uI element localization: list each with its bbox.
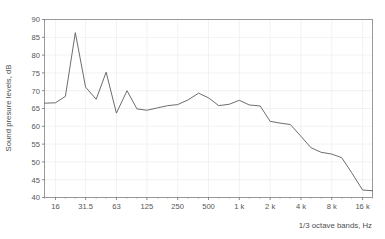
y-tick-label: 65 <box>32 104 40 113</box>
x-tick-label: 8 k <box>327 202 337 211</box>
y-tick-label: 85 <box>32 33 40 42</box>
y-tick-label: 90 <box>32 15 40 24</box>
y-tick-label: 70 <box>32 87 40 96</box>
y-axis-label: Sound presure levels, dB <box>4 64 13 151</box>
x-tick-label: 125 <box>141 202 154 211</box>
chart-container: 4045505560657075808590 1631.563125250500… <box>0 0 385 239</box>
y-tick-label: 80 <box>32 51 40 60</box>
x-axis-tick-labels: 1631.5631252505001 k2 k4 k8 k16 k <box>51 202 370 211</box>
x-tick-label: 1 k <box>234 202 244 211</box>
x-tick-label: 250 <box>171 202 184 211</box>
y-tick-label: 75 <box>32 69 40 78</box>
x-tick-label: 2 k <box>265 202 275 211</box>
x-tick-label: 500 <box>202 202 215 211</box>
y-tick-label: 40 <box>32 193 40 202</box>
x-tick-label: 16 <box>51 202 59 211</box>
y-tick-label: 60 <box>32 122 40 131</box>
y-tick-label: 50 <box>32 158 40 167</box>
y-tick-label: 45 <box>32 176 40 185</box>
x-axis-label: 1/3 octave bands, Hz <box>299 221 372 230</box>
x-tick-label: 16 k <box>355 202 370 211</box>
y-axis-tick-labels: 4045505560657075808590 <box>32 15 40 202</box>
y-tick-label: 55 <box>32 140 40 149</box>
spl-line-chart: 4045505560657075808590 1631.563125250500… <box>0 0 385 239</box>
x-tick-label: 63 <box>112 202 120 211</box>
x-tick-label: 31.5 <box>78 202 93 211</box>
x-tick-label: 4 k <box>296 202 306 211</box>
